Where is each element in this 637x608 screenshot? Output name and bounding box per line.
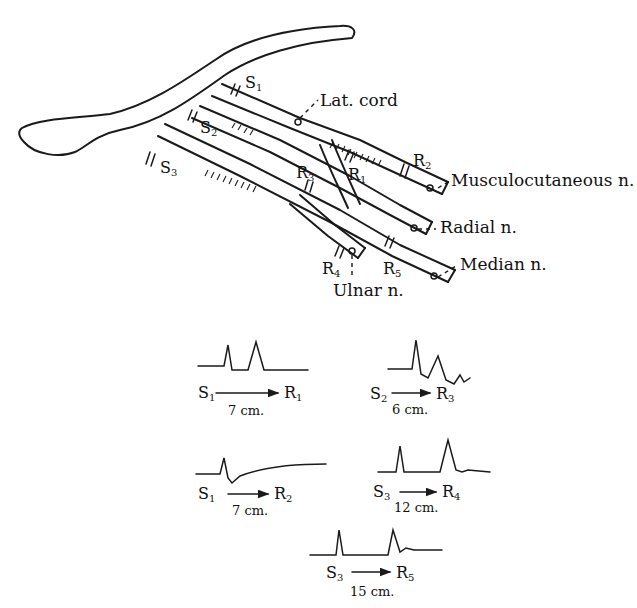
waveform	[388, 340, 470, 384]
svg-text:R1: R1	[284, 383, 302, 403]
r5-point-label: R5	[383, 259, 401, 279]
ulnar-label: Ulnar n.	[333, 280, 404, 300]
r4-point-label: R4	[322, 259, 340, 279]
distance-label: 15 cm.	[350, 584, 394, 599]
nerve-bundles	[146, 84, 455, 282]
svg-text:R3: R3	[436, 384, 454, 404]
trace-s1-r1: S1 R1 7 cm.	[198, 342, 308, 418]
svg-text:S3: S3	[373, 482, 390, 502]
distance-label: 12 cm.	[394, 500, 438, 515]
radial-label: Radial n.	[440, 217, 517, 237]
distance-label: 6 cm.	[392, 402, 428, 417]
s3-point-label: S3	[160, 158, 177, 178]
r1-point-label: R1	[348, 165, 366, 185]
waveform	[196, 458, 326, 483]
lat-cord-label: Lat. cord	[320, 90, 398, 110]
clavicle	[19, 26, 354, 155]
trace-s2-r3: S2 R3 6 cm.	[370, 340, 470, 417]
median-label: Median n.	[460, 254, 547, 274]
waveform	[198, 342, 308, 370]
waveform	[310, 530, 442, 555]
svg-text:S3: S3	[326, 563, 343, 583]
trace-s1-r2: S1 R2 7 cm.	[196, 458, 326, 518]
nerve-conduction-diagram: Lat. cord Musculocutaneous n. Radial n. …	[0, 0, 637, 608]
svg-text:S1: S1	[198, 383, 215, 403]
distance-label: 7 cm.	[232, 503, 268, 518]
r3-point-label: R3	[296, 163, 314, 183]
trace-s3-r5: S3 R5 15 cm.	[310, 530, 442, 599]
svg-text:S1: S1	[198, 484, 215, 504]
r2-point-label: R2	[413, 151, 431, 171]
svg-text:R4: R4	[442, 482, 460, 502]
waveform	[378, 440, 490, 472]
svg-text:R2: R2	[274, 484, 292, 504]
svg-text:R5: R5	[396, 563, 414, 583]
distance-label: 7 cm.	[228, 403, 264, 418]
musculocutaneous-label: Musculocutaneous n.	[451, 170, 634, 190]
s1-point-label: S1	[245, 73, 262, 93]
lat-cord-leader	[300, 100, 318, 118]
trace-s3-r4: S3 R4 12 cm.	[373, 440, 490, 515]
s2-point-label: S2	[200, 118, 217, 138]
svg-text:S2: S2	[370, 384, 387, 404]
